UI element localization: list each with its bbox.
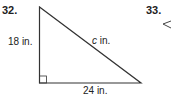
problem-number-32: 32. <box>2 4 17 16</box>
hypotenuse-unit: in. <box>97 35 110 46</box>
leg-vertical-label: 18 in. <box>8 36 32 47</box>
problem-number-33: 33. <box>146 4 161 16</box>
leg-horizontal-label: 24 in. <box>83 85 107 96</box>
right-angle-marker <box>40 76 47 83</box>
hypotenuse-label: c in. <box>92 35 110 46</box>
